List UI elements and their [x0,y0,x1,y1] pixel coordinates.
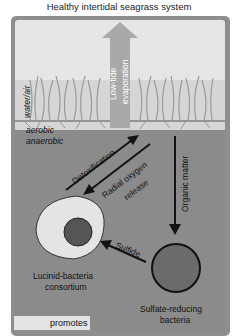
lucinid-label-2: consortium [45,282,87,292]
anaerobic-label: anaerobic [26,136,63,146]
sulfate-reducing-bacteria-icon [152,244,200,292]
srb-label-2: bacteria [160,315,190,325]
evaporation-label-1: Low-tide [108,68,118,100]
legend-promotes: promotes [50,318,88,328]
lucinid-label-1: Lucinid-bacteria [33,271,93,281]
water-air-label: water/air [22,85,32,118]
aerobic-label: aerobic [26,125,54,135]
evaporation-label-2: evaporation [120,60,130,104]
srb-label-1: Sulfate-reducing [140,304,202,314]
organic-matter-label: Organic matter [180,156,190,212]
